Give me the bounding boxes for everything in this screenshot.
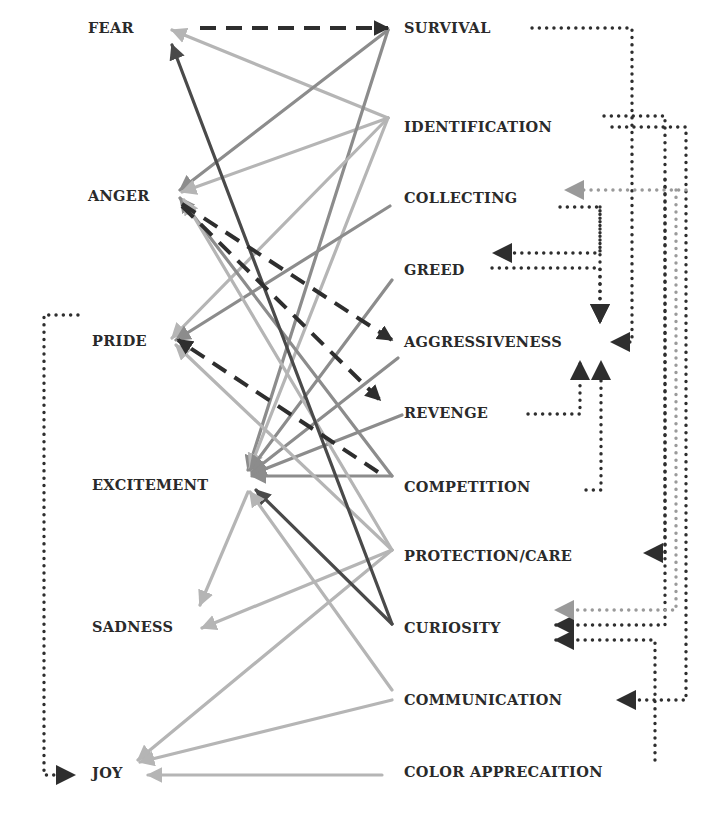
edge-protection_care-to-anger — [184, 200, 392, 550]
node-fear: FEAR — [88, 21, 134, 36]
solid-edges — [138, 30, 402, 775]
edge-pride-to-joy — [44, 315, 78, 775]
node-collecting: COLLECTING — [404, 191, 517, 206]
node-color-appreciation: COLOR APPRECAITION — [404, 765, 603, 780]
edge-protection_care-to-joy — [138, 550, 392, 760]
node-identification: IDENTIFICATION — [404, 120, 552, 135]
node-pride: PRIDE — [92, 334, 147, 349]
edge-collecting-to-greed — [494, 207, 600, 253]
emotion-motivation-diagram: FEAR ANGER PRIDE EXCITEMENT SADNESS JOY … — [0, 0, 725, 828]
edge-survival-to-anger — [180, 30, 388, 190]
node-anger: ANGER — [88, 189, 150, 204]
edge-communication-to-excitement — [250, 492, 392, 690]
node-protection-care: PROTECTION/CARE — [404, 549, 572, 564]
node-survival: SURVIVAL — [404, 21, 491, 36]
edge-survival-to-aggressiveness — [532, 28, 632, 342]
edge-excitement-to-sadness — [200, 492, 248, 605]
edge-layer — [0, 0, 725, 828]
edge-identification-to-protection_care — [645, 180, 665, 553]
node-competition: COMPETITION — [404, 480, 531, 495]
edge-identification-to-fear — [172, 30, 388, 118]
node-revenge: REVENGE — [404, 406, 488, 421]
edge-collecting-to-aggressiveness — [560, 207, 600, 322]
node-communication: COMMUNICATION — [404, 693, 562, 708]
dashed-edges — [178, 28, 392, 472]
edge-protection_care-to-sadness — [202, 550, 392, 628]
node-sadness: SADNESS — [92, 620, 173, 635]
edge-revenge-to-excitement — [252, 415, 402, 474]
edge-revenge-to-aggressiveness — [528, 362, 580, 414]
edge-competition-to-anger — [180, 198, 392, 476]
node-excitement: EXCITEMENT — [92, 478, 208, 493]
edge-greed-to-aggressiveness — [492, 268, 600, 322]
edge-competition-to-aggressiveness — [586, 362, 601, 490]
node-aggressiveness: AGGRESSIVENESS — [404, 335, 562, 350]
node-greed: GREED — [404, 263, 465, 278]
edge-communication-to-joy — [140, 700, 392, 762]
node-curiosity: CURIOSITY — [404, 621, 501, 636]
edge-identification_loop-to-identification — [556, 116, 665, 625]
node-joy: JOY — [92, 766, 123, 781]
